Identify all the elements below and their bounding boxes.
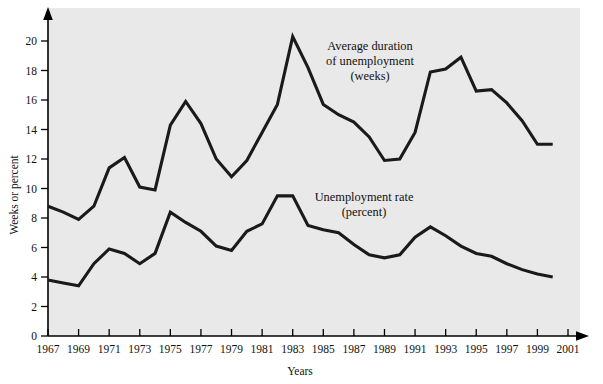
- y-tick-label: 2: [31, 301, 37, 313]
- x-tick-label: 1979: [220, 343, 243, 355]
- x-tick-label: 1989: [373, 343, 396, 355]
- lower-series-annotation: Unemployment rate (percent): [315, 190, 414, 219]
- upper-annotation-line3: (weeks): [350, 69, 389, 83]
- x-axis-arrow-icon: [576, 331, 589, 341]
- y-tick-label: 10: [26, 183, 38, 195]
- x-tick-label: 1999: [526, 343, 549, 355]
- x-tick-label: 1969: [67, 343, 90, 355]
- upper-series-annotation: Average duration of unemployment (weeks): [326, 39, 414, 83]
- x-tick-label: 1975: [159, 343, 182, 355]
- y-tick-label: 4: [31, 271, 37, 283]
- y-tick-label: 12: [26, 153, 38, 165]
- y-tick-label: 0: [31, 330, 37, 342]
- series-avg-duration: [48, 37, 553, 220]
- upper-annotation-line1: Average duration: [327, 39, 412, 53]
- y-tick-label: 14: [26, 124, 38, 136]
- lower-annotation-line2: (percent): [342, 205, 387, 219]
- y-tick-label: 8: [31, 212, 37, 224]
- y-tick-label: 18: [26, 65, 38, 77]
- x-tick-label: 1967: [37, 343, 60, 355]
- chart-canvas: 0246810121416182019671969197119731975197…: [0, 0, 603, 384]
- x-tick-label: 2001: [557, 343, 580, 355]
- x-tick-label: 1987: [342, 343, 365, 355]
- x-tick-label: 1997: [495, 343, 518, 355]
- x-axis: [48, 331, 589, 341]
- y-tick-label: 6: [31, 242, 37, 254]
- series-unemployment-rate: [48, 196, 553, 286]
- x-tick-label: 1993: [434, 343, 457, 355]
- x-tick-label: 1981: [251, 343, 274, 355]
- x-tick-label: 1973: [128, 343, 151, 355]
- x-tick-label: 1985: [312, 343, 335, 355]
- upper-annotation-line2: of unemployment: [326, 54, 414, 68]
- x-tick-label: 1991: [404, 343, 427, 355]
- y-axis-title: Weeks or percent: [8, 154, 21, 234]
- unemployment-chart: 0246810121416182019671969197119731975197…: [0, 0, 603, 384]
- y-tick-label: 16: [26, 94, 38, 106]
- x-tick-label: 1995: [465, 343, 488, 355]
- x-tick-label: 1977: [189, 343, 212, 355]
- lower-annotation-line1: Unemployment rate: [315, 190, 414, 204]
- x-tick-label: 1971: [98, 343, 121, 355]
- data-series-group: [48, 37, 553, 286]
- y-axis: [43, 7, 53, 336]
- axis-ticks: [41, 41, 568, 336]
- x-axis-title: Years: [287, 365, 313, 377]
- x-tick-label: 1983: [281, 343, 304, 355]
- axis-tick-labels: 0246810121416182019671969197119731975197…: [26, 35, 580, 355]
- y-tick-label: 20: [26, 35, 38, 47]
- y-axis-arrow-icon: [43, 7, 53, 20]
